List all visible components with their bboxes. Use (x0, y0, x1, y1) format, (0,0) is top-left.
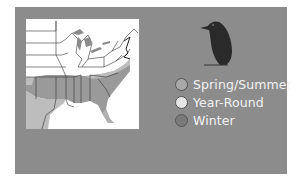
range-map-panel: Spring/Summer Year-Round Winter (15, 7, 287, 174)
bird-silhouette-icon (198, 17, 238, 69)
spring-summer-swatch-icon (175, 78, 188, 91)
legend-label: Year-Round (193, 95, 264, 110)
range-map (26, 19, 139, 129)
legend-label: Winter (193, 113, 235, 128)
legend-item-spring-summer: Spring/Summer (175, 75, 292, 93)
range-legend: Spring/Summer Year-Round Winter (175, 75, 292, 129)
legend-item-winter: Winter (175, 111, 292, 129)
us-east-map-graphic (26, 19, 139, 129)
year-round-swatch-icon (175, 96, 188, 109)
legend-item-year-round: Year-Round (175, 93, 292, 111)
legend-label: Spring/Summer (193, 77, 292, 92)
winter-swatch-icon (175, 114, 188, 127)
